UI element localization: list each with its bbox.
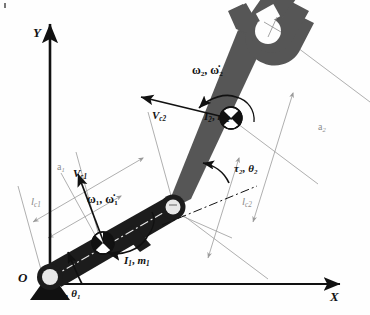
robot-manipulator-diagram: Y X O Vc1 ω₁, ω̇₁ I1, m1 τ₁, θ₁ a1 lc1 V… bbox=[0, 0, 370, 315]
x-axis-label: X bbox=[330, 290, 339, 303]
velocity-arrow-vc1 bbox=[78, 174, 104, 243]
m2-subscript: 2 bbox=[226, 116, 230, 124]
com-symbol-link1 bbox=[92, 232, 114, 254]
link2-com-length-label: lc2 bbox=[242, 196, 252, 209]
m1-subscript: 1 bbox=[146, 260, 150, 268]
m1-symbol: m bbox=[137, 254, 146, 266]
elbow-joint-pin bbox=[166, 200, 181, 215]
link2-torque-angle-label: τ₂, θ₂ bbox=[234, 163, 258, 174]
vc1-subscript: c1 bbox=[80, 173, 87, 181]
a1-subscript: 1 bbox=[61, 166, 64, 173]
leader-line-elbow-right bbox=[182, 216, 232, 238]
link2-inertia-mass-label: I2, m2 bbox=[204, 111, 230, 124]
elbow-joint-group bbox=[161, 195, 186, 220]
vc2-subscript: c2 bbox=[159, 115, 166, 123]
origin-label: O bbox=[18, 271, 27, 284]
theta2-arc bbox=[203, 163, 229, 183]
diagram-canvas bbox=[0, 0, 370, 315]
link1-inertia-mass-label: I1, m1 bbox=[124, 255, 150, 268]
dim-ext-line-com2 bbox=[230, 118, 318, 184]
link1-length-label: a1 bbox=[57, 162, 65, 173]
m2-symbol: m bbox=[217, 110, 226, 122]
link2-length-label: a2 bbox=[318, 122, 326, 133]
link1-angular-velocity-label: ω₁, ω̇₁ bbox=[87, 193, 118, 205]
dim-ext-line-elbow bbox=[148, 112, 173, 203]
lc2-subscript: c2 bbox=[245, 201, 252, 209]
base-joint-pin bbox=[42, 269, 58, 285]
lc1-subscript: c1 bbox=[34, 201, 41, 209]
link1-torque-angle-label: τ₁, θ₁ bbox=[57, 288, 81, 299]
leader-line-com1 bbox=[61, 173, 100, 244]
link2-angular-velocity-label: ω₂, ω̇₂ bbox=[192, 64, 223, 76]
y-axis-label: Y bbox=[33, 26, 41, 39]
dim-ext-line-elbow-2 bbox=[180, 213, 268, 279]
dim-arrow-a2 bbox=[253, 93, 293, 222]
a2-subscript: 2 bbox=[322, 126, 325, 133]
link2-velocity-label: Vc2 bbox=[152, 110, 166, 123]
link1-velocity-label: Vc1 bbox=[73, 168, 87, 181]
link1-com-length-label: lc1 bbox=[31, 196, 41, 209]
